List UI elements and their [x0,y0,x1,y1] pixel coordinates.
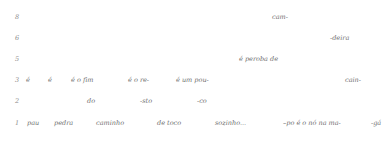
syllable-fragment: de toco [157,118,181,128]
syllable-fragment: -deira [330,33,349,43]
row-level-number: 8 [15,12,19,22]
scansion-sheet: 8cam-6-deira5é peroba de3ééé o fimé o re… [0,0,390,142]
row-level-number: 6 [15,33,19,43]
scansion-row: 8cam- [0,12,390,34]
row-level-number: 1 [15,118,19,128]
row-level-number: 2 [15,96,19,106]
syllable-fragment: sozinho... [215,118,246,128]
syllable-fragment: é um pou- [176,75,209,85]
scansion-row: 5é peroba de [0,54,390,76]
scansion-row: 6-deira [0,33,390,55]
scansion-row: 1paupedracaminhode tocosozinho...–po é o… [0,118,390,140]
scansion-row: 3ééé o fimé o re-é um pou-cain- [0,75,390,97]
syllable-fragment: -co [197,96,207,106]
syllable-fragment: -sto [140,96,152,106]
syllable-fragment: –po é o nó na ma- [283,118,341,128]
syllable-fragment: -gá [371,118,381,128]
syllable-fragment: é o fim [71,75,93,85]
syllable-fragment: pau [27,118,39,128]
syllable-fragment: é o re- [128,75,149,85]
syllable-fragment: do [87,96,95,106]
syllable-fragment: cam- [272,12,288,22]
syllable-fragment: é [48,75,52,85]
row-level-number: 3 [15,75,19,85]
syllable-fragment: cain- [345,75,361,85]
syllable-fragment: é peroba de [239,54,278,64]
row-level-number: 5 [15,54,19,64]
syllable-fragment: pedra [54,118,73,128]
syllable-fragment: é [26,75,30,85]
syllable-fragment: caminho [96,118,124,128]
scansion-row: 2do-sto-co [0,96,390,118]
